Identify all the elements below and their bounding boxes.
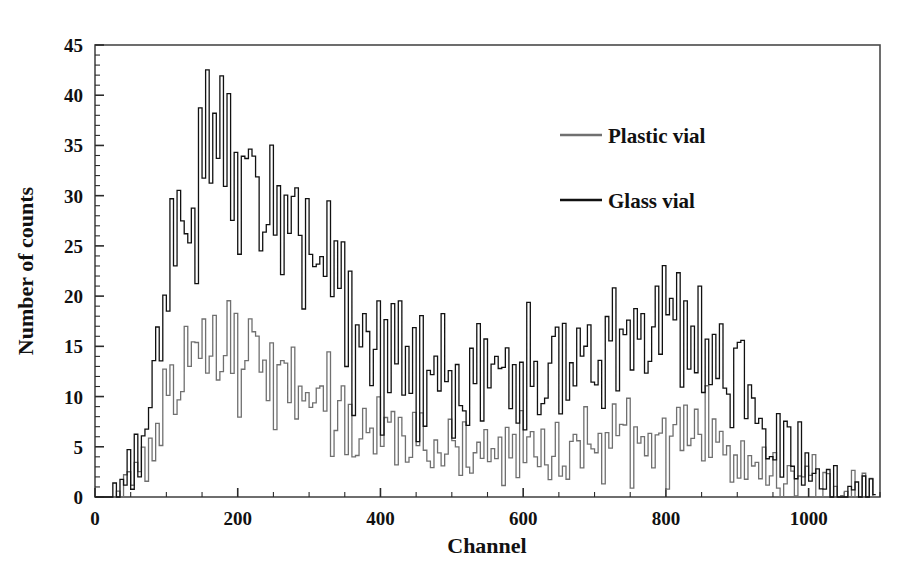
y-axis-title: Number of counts: [13, 186, 38, 355]
y-tick-label: 20: [64, 286, 83, 307]
y-tick-label: 15: [64, 336, 83, 357]
y-tick-label: 5: [74, 437, 84, 458]
x-tick-label: 600: [509, 508, 538, 529]
y-tick-label: 10: [64, 387, 83, 408]
x-tick-label: 200: [223, 508, 252, 529]
legend-label-1: Glass vial: [608, 189, 695, 213]
x-axis-title: Channel: [447, 533, 526, 558]
x-tick-label: 800: [652, 508, 681, 529]
y-tick-label: 35: [64, 135, 83, 156]
legend-label-0: Plastic vial: [608, 124, 706, 148]
x-tick-label: 400: [366, 508, 395, 529]
y-tick-label: 40: [64, 85, 83, 106]
chart-figure: 051015202530354045 02004006008001000 Pla…: [0, 0, 911, 580]
y-tick-label: 30: [64, 186, 83, 207]
x-tick-label: 1000: [790, 508, 828, 529]
spectrum-chart: 051015202530354045 02004006008001000 Pla…: [0, 0, 911, 580]
y-tick-label: 25: [64, 236, 83, 257]
x-tick-label: 0: [90, 508, 100, 529]
y-tick-label: 0: [74, 487, 84, 508]
y-tick-label: 45: [64, 35, 83, 56]
